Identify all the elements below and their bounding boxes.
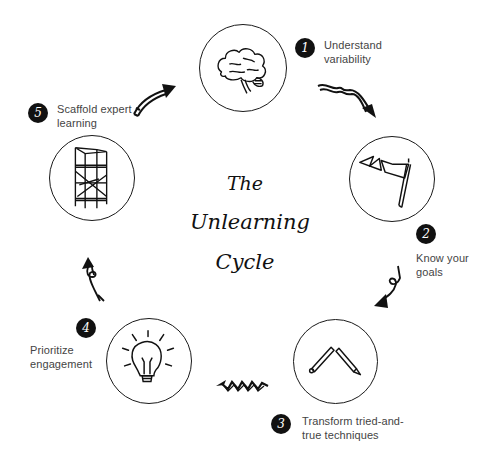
pencils-icon (294, 320, 377, 403)
step-4-circle (106, 318, 192, 404)
step-4-badge: 4 (76, 318, 96, 338)
arrow-3-to-4-icon (214, 378, 270, 394)
flag-icon (350, 137, 434, 221)
step-1-circle (199, 24, 287, 112)
step-2-label-line-2: goals (416, 265, 469, 279)
arrow-5-to-1-icon (130, 78, 180, 120)
step-2-badge: 2 (416, 224, 436, 244)
step-5-badge: 5 (28, 103, 48, 123)
step-4-label: Prioritize engagement (30, 343, 92, 371)
step-2-circle (349, 136, 435, 222)
step-4-label-line-1: Prioritize (30, 343, 92, 357)
step-1-badge: 1 (295, 38, 315, 58)
unlearning-cycle-diagram: The Unlearning Cycle 1 Understand variab… (0, 0, 487, 466)
step-1-label-line-2: variability (324, 52, 382, 66)
scaffold-icon (50, 136, 134, 220)
step-2-label: Know your goals (416, 251, 469, 279)
step-1-label: Understand variability (324, 38, 382, 66)
step-5-label-line-2: learning (57, 116, 132, 130)
step-5-label: Scaffold expert learning (57, 102, 132, 130)
step-3-label-line-1: Transform tried-and- (302, 414, 404, 428)
step-3-label: Transform tried-and- true techniques (302, 414, 404, 442)
step-2-label-line-1: Know your (416, 251, 469, 265)
step-5-label-line-1: Scaffold expert (57, 102, 132, 116)
step-5-circle (49, 135, 135, 221)
step-3-label-line-2: true techniques (302, 428, 404, 442)
title-cycle: Cycle (195, 250, 295, 274)
title-the: The (205, 172, 285, 194)
title-unlearning: Unlearning (175, 210, 325, 234)
lightbulb-icon (107, 319, 191, 403)
step-1-label-line-1: Understand (324, 38, 382, 52)
brain-icon (200, 25, 286, 111)
arrow-2-to-3-icon (370, 264, 406, 312)
step-3-circle (293, 319, 378, 404)
arrow-1-to-2-icon (314, 78, 384, 123)
arrow-4-to-5-icon (78, 255, 112, 305)
step-3-badge: 3 (271, 414, 291, 434)
step-4-label-line-2: engagement (30, 357, 92, 371)
